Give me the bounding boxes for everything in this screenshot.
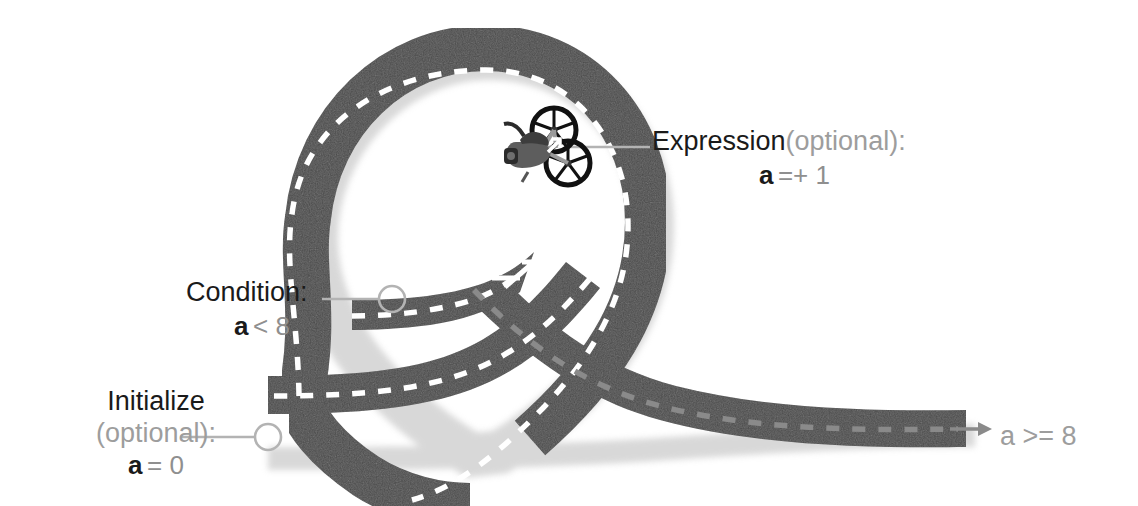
expression-op: =+ 1 — [778, 160, 830, 190]
exit-text: a >= 8 — [1000, 421, 1077, 453]
initialize-name: Initialize — [58, 386, 254, 418]
initialize-label: Initialize (optional): a = 0 — [58, 386, 254, 480]
expression-optional: (optional): — [786, 126, 906, 156]
expression-name: Expression — [652, 126, 786, 156]
expression-var: a — [759, 160, 773, 190]
initialize-optional: (optional): — [58, 418, 254, 450]
diagram-canvas: Expression(optional): a =+ 1 Condition: … — [0, 0, 1138, 506]
condition-name: Condition: — [186, 277, 308, 307]
initialize-op: = 0 — [147, 450, 184, 480]
exit-label: a >= 8 — [1000, 421, 1077, 453]
expression-label: Expression(optional): a =+ 1 — [652, 126, 937, 191]
condition-var: a — [234, 311, 248, 341]
initialize-var: a — [128, 450, 142, 480]
condition-op: < 8 — [253, 311, 290, 341]
condition-label: Condition: a < 8 — [186, 277, 338, 342]
